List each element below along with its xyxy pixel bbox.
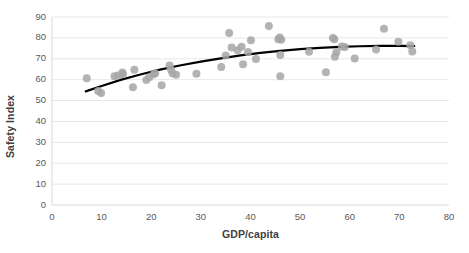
y-tick-label: 80 [20, 31, 46, 42]
x-tick-label: 70 [386, 211, 412, 222]
y-tick-label: 90 [20, 11, 46, 22]
x-tick-label: 0 [39, 211, 65, 222]
y-tick-label: 10 [20, 178, 46, 189]
y-tick-label: 40 [20, 115, 46, 126]
x-tick-label: 10 [89, 211, 115, 222]
y-tick-label: 20 [20, 157, 46, 168]
x-tick-label: 60 [337, 211, 363, 222]
data-points [83, 22, 417, 97]
y-tick-label: 70 [20, 52, 46, 63]
scatter-chart: Safety Index GDP/capita 0102030405060708… [0, 0, 469, 253]
y-tick-label: 50 [20, 94, 46, 105]
x-tick-label: 20 [138, 211, 164, 222]
y-tick-label: 30 [20, 136, 46, 147]
y-tick-label: 60 [20, 73, 46, 84]
y-tick-label: 0 [20, 199, 46, 210]
x-tick-label: 30 [188, 211, 214, 222]
x-tick-label: 80 [436, 211, 462, 222]
x-tick-label: 50 [287, 211, 313, 222]
x-tick-label: 40 [238, 211, 264, 222]
